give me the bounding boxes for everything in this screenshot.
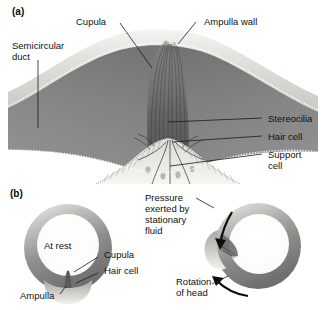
ring-rotating-inner [229, 214, 289, 274]
panel-a-letter: (a) [12, 6, 24, 17]
label-ampulla-wall: Ampulla wall [204, 16, 257, 27]
figure-root: (a) Semicircular duct Cupula Ampulla wal… [0, 0, 326, 310]
label-pressure-stationary-fluid: Pressure exerted by stationary fluid [145, 192, 189, 236]
label-support-cell: Support cell [268, 149, 301, 171]
label-rotation-of-head: Rotation of head [176, 276, 211, 298]
label-ampulla-b: Ampulla [20, 290, 54, 301]
leader-pressure [196, 198, 214, 208]
label-cupula-a: Cupula [76, 16, 106, 27]
label-cupula-b: Cupula [104, 249, 134, 260]
label-semicircular-duct: Semicircular duct [12, 40, 64, 62]
label-at-rest: At rest [44, 240, 71, 251]
label-stereocilia: Stereocilia [268, 113, 312, 124]
panel-b-letter: (b) [10, 188, 23, 199]
duct-ring-at-rest [24, 204, 112, 304]
label-hair-cell-a: Hair cell [268, 131, 302, 142]
label-hair-cell-b: Hair cell [104, 265, 138, 276]
duct-ring-rotating [205, 203, 302, 296]
